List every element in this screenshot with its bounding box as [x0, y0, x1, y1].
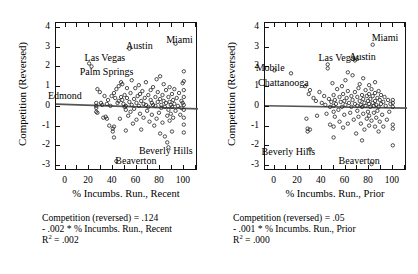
data-point: [140, 99, 143, 102]
data-point: [157, 111, 160, 114]
data-point: [320, 101, 323, 104]
data-point: [156, 100, 159, 103]
y-tick-mark: [264, 165, 269, 166]
data-point: [182, 116, 185, 119]
y-axis-title-prior: Competition (Reversed): [225, 14, 237, 174]
data-point: [156, 90, 159, 93]
data-point: [112, 91, 115, 94]
data-point: [121, 98, 124, 101]
data-point: [358, 99, 361, 102]
x-tick-mark-bottom: [183, 165, 184, 170]
data-point: [332, 136, 335, 139]
x-tick-mark-bottom: [159, 165, 160, 170]
x-tick-mark-top: [368, 22, 369, 27]
data-point: [328, 123, 331, 126]
data-point: [331, 81, 334, 84]
data-point: [357, 86, 360, 89]
data-point: [382, 100, 385, 103]
point-label: Mobile: [256, 63, 285, 73]
caption-line-1: Competition (reversed) = .124: [42, 212, 172, 223]
data-point: [144, 81, 147, 84]
data-point: [332, 110, 335, 113]
data-point: [388, 110, 391, 113]
data-point: [96, 87, 99, 90]
data-point: [149, 88, 152, 91]
data-point: [173, 102, 176, 105]
data-point: [356, 109, 359, 112]
data-point: [352, 118, 355, 121]
data-point: [341, 92, 344, 95]
data-point: [386, 98, 389, 101]
caption-recent: Competition (reversed) = .124 - .002 * %…: [42, 212, 172, 246]
y-tick-mark: [264, 47, 269, 48]
y-tick-label: 1: [27, 81, 50, 91]
data-point: [363, 128, 366, 131]
data-point: [169, 112, 172, 115]
data-point: [168, 119, 171, 122]
y-tick-mark: [55, 86, 60, 87]
x-tick-mark-top: [345, 22, 346, 27]
data-point: [314, 99, 317, 102]
x-tick-mark-bottom: [100, 165, 101, 170]
data-point: [391, 123, 394, 126]
data-point: [350, 94, 353, 97]
data-point: [112, 136, 115, 139]
data-point: [391, 144, 394, 147]
data-point: [371, 43, 374, 46]
data-point: [151, 85, 154, 88]
x-tick-mark-bottom: [112, 165, 113, 170]
data-point: [375, 116, 378, 119]
y-tick-mark: [55, 126, 60, 127]
data-point: [340, 84, 343, 87]
data-point: [307, 92, 310, 95]
y-tick-label: 4: [27, 22, 50, 32]
x-tick-mark-bottom: [333, 165, 334, 170]
x-tick-mark-top: [76, 22, 77, 27]
data-point: [171, 116, 174, 119]
x-tick-mark-top: [309, 22, 310, 27]
data-point: [125, 96, 128, 99]
data-point: [354, 132, 357, 135]
data-point: [171, 98, 174, 101]
data-point: [123, 93, 126, 96]
y-tick-mark: [55, 27, 60, 28]
y-tick-mark: [55, 145, 60, 146]
caption-line-1: Competition (reversed) = .05: [233, 212, 356, 223]
data-point: [326, 63, 329, 66]
y-tick-mark: [264, 27, 269, 28]
data-point: [305, 117, 308, 120]
x-tick-mark-top: [171, 22, 172, 27]
panel-prior: Competition (Reversed) 43210-1-2-3 02040…: [209, 0, 418, 274]
data-point: [333, 98, 336, 101]
data-point: [343, 99, 346, 102]
data-point: [166, 141, 169, 144]
y-axis-title-recent: Competition (Reversed): [16, 14, 28, 174]
data-point: [373, 99, 376, 102]
data-point: [150, 113, 153, 116]
x-tick-mark-bottom: [65, 165, 66, 170]
point-label: Miami: [372, 33, 399, 43]
data-point: [346, 89, 349, 92]
data-point: [106, 98, 109, 101]
y-tick-label: -1: [27, 121, 50, 131]
data-point: [147, 93, 150, 96]
data-point: [138, 112, 141, 115]
data-point: [333, 115, 336, 118]
y-tick-label: -2: [27, 140, 50, 150]
point-label: Las Vegas: [85, 53, 126, 63]
x-tick-mark-bottom: [195, 165, 196, 170]
data-point: [98, 90, 101, 93]
panel-recent: Competition (Reversed) 43210-1-2-3 02040…: [0, 0, 209, 274]
x-axis-title-prior: % Incumbs. Run., Prior: [245, 188, 418, 199]
data-point: [349, 111, 352, 114]
data-point: [182, 95, 185, 98]
data-point: [113, 96, 116, 99]
data-point: [154, 95, 157, 98]
data-point: [174, 109, 177, 112]
data-point: [364, 88, 367, 91]
data-point: [367, 124, 370, 127]
data-point: [126, 114, 129, 117]
data-point: [179, 113, 182, 116]
data-point: [117, 84, 120, 87]
data-point: [289, 72, 292, 75]
